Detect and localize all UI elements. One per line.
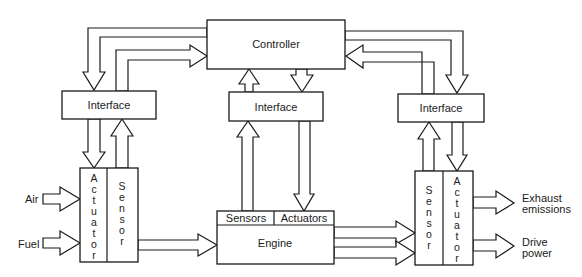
interface-center-block: Interface bbox=[229, 92, 323, 121]
exhaust-label-line2: emissions bbox=[522, 203, 571, 215]
arrow-right-interface-to-controller bbox=[346, 45, 434, 94]
arrow-engine-to-right-sensor-2 bbox=[334, 241, 415, 265]
control-system-diagram: Controller Interface Interface Interface… bbox=[0, 0, 582, 277]
arrow-left-interface-to-controller bbox=[116, 45, 207, 91]
engine-sensors-label: Sensors bbox=[226, 212, 267, 224]
arrow-fuel-input bbox=[43, 231, 80, 255]
svg-text:r: r bbox=[120, 235, 124, 247]
arrow-engine-sensors-to-center-interface bbox=[237, 121, 259, 211]
right-actuator-label: A c t u a t o r bbox=[453, 175, 460, 264]
arrow-center-interface-to-engine-actuators bbox=[294, 121, 314, 211]
arrow-exhaust-output bbox=[473, 191, 514, 214]
arrow-center-interface-to-controller bbox=[239, 69, 259, 92]
engine-label: Engine bbox=[258, 237, 292, 249]
svg-text:r: r bbox=[455, 252, 459, 264]
drive-label-line2: power bbox=[522, 247, 552, 259]
arrow-sensor-to-left-interface bbox=[111, 119, 133, 168]
left-actuator-sensor-block: A c t u a t o r S e n s o r bbox=[80, 168, 138, 262]
interface-left-block: Interface bbox=[62, 91, 156, 119]
controller-block: Controller bbox=[207, 20, 345, 69]
interface-center-label: Interface bbox=[255, 101, 298, 113]
arrow-right-sensor-to-interface bbox=[418, 122, 440, 171]
arrow-air-input bbox=[43, 187, 80, 211]
arrow-engine-to-right-sensor-1 bbox=[334, 221, 415, 244]
arrow-controller-to-center-interface bbox=[291, 69, 313, 92]
fuel-label: Fuel bbox=[18, 238, 39, 250]
controller-label: Controller bbox=[252, 38, 300, 50]
interface-left-label: Interface bbox=[88, 99, 131, 111]
interface-right-block: Interface bbox=[398, 94, 484, 122]
arrow-sensor-to-engine bbox=[138, 234, 217, 256]
arrow-drive-output bbox=[473, 234, 514, 258]
svg-text:r: r bbox=[427, 239, 431, 251]
engine-actuators-label: Actuators bbox=[281, 212, 328, 224]
interface-right-label: Interface bbox=[420, 102, 463, 114]
engine-block: Sensors Actuators Engine bbox=[217, 211, 334, 264]
right-sensor-actuator-block: S e n s o r A c t u a t o r bbox=[415, 171, 473, 265]
air-label: Air bbox=[25, 193, 39, 205]
svg-text:r: r bbox=[92, 249, 96, 261]
arrow-right-interface-to-actuator bbox=[447, 122, 467, 171]
left-actuator-label: A c t u a t o r bbox=[90, 172, 97, 261]
arrow-left-interface-to-actuator bbox=[83, 119, 105, 168]
